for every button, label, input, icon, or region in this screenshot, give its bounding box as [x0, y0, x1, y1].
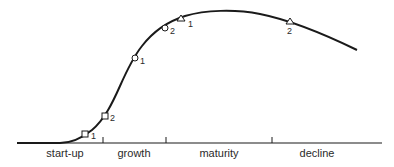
square-marker-1-label: 1 — [91, 132, 96, 141]
circle-marker-1 — [132, 55, 138, 61]
life-cycle-curve — [17, 11, 357, 143]
life-cycle-diagram — [0, 0, 394, 167]
stage-label-growth: growth — [117, 147, 150, 159]
circle-marker-2 — [162, 25, 168, 31]
square-marker-2-label: 2 — [110, 114, 115, 123]
square-marker-2 — [102, 113, 108, 119]
stage-label-maturity: maturity — [199, 147, 238, 159]
circle-marker-2-label: 2 — [170, 27, 175, 36]
triangle-marker-2-label: 2 — [287, 27, 292, 36]
stage-label-startup: start-up — [46, 147, 83, 159]
stage-label-decline: decline — [300, 147, 335, 159]
square-marker-1 — [82, 131, 88, 137]
triangle-marker-1-label: 1 — [188, 20, 193, 29]
circle-marker-1-label: 1 — [140, 57, 145, 66]
